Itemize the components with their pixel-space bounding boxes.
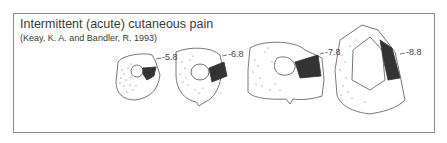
section-7-8 [248,42,324,104]
brain-sections-illustration [0,0,447,143]
section-6-8 [176,48,227,106]
level-label-6-8: -6.8 [228,49,244,59]
level-label-7-8: -7.8 [325,47,341,57]
section-8-8 [335,25,405,114]
level-label-8-8: -8.8 [406,47,422,57]
section-5-8 [116,54,161,100]
level-label-5-8: -5.8 [162,52,178,62]
